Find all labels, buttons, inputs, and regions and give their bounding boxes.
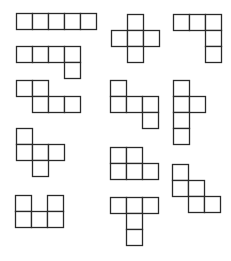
square-cell — [48, 212, 64, 228]
p-pentomino-shape — [111, 148, 159, 180]
square-cell — [65, 47, 81, 63]
n-pentomino-shape — [17, 81, 81, 113]
y-pentomino-shape — [174, 81, 206, 145]
z-pentomino-shape — [111, 81, 159, 129]
square-cell — [143, 113, 159, 129]
square-cell — [81, 14, 97, 30]
square-cell — [32, 212, 48, 228]
square-cell — [17, 145, 33, 161]
square-cell — [173, 165, 189, 181]
w-pentomino-shape — [173, 165, 221, 213]
x-pentomino-shape — [112, 15, 160, 63]
square-cell — [49, 145, 65, 161]
square-cell — [144, 31, 160, 47]
square-cell — [49, 14, 65, 30]
square-cell — [48, 196, 64, 212]
pentomino-diagram — [0, 0, 231, 261]
square-cell — [111, 198, 127, 214]
square-cell — [17, 47, 33, 63]
square-cell — [17, 81, 33, 97]
square-cell — [127, 164, 143, 180]
square-cell — [111, 148, 127, 164]
square-cell — [189, 181, 205, 197]
square-cell — [16, 196, 32, 212]
square-cell — [111, 164, 127, 180]
square-cell — [127, 198, 143, 214]
square-cell — [111, 81, 127, 97]
square-cell — [206, 31, 222, 47]
i-pentomino-shape — [17, 14, 97, 30]
square-cell — [189, 197, 205, 213]
square-cell — [174, 97, 190, 113]
square-cell — [16, 212, 32, 228]
square-cell — [127, 148, 143, 164]
square-cell — [65, 63, 81, 79]
square-cell — [111, 97, 127, 113]
square-cell — [174, 81, 190, 97]
square-cell — [33, 47, 49, 63]
square-cell — [65, 97, 81, 113]
square-cell — [33, 81, 49, 97]
square-cell — [206, 47, 222, 63]
square-cell — [128, 15, 144, 31]
square-cell — [33, 14, 49, 30]
square-cell — [174, 129, 190, 145]
f-pentomino-shape — [17, 129, 65, 177]
square-cell — [65, 14, 81, 30]
square-cell — [127, 97, 143, 113]
square-cell — [143, 198, 159, 214]
square-cell — [127, 214, 143, 230]
square-cell — [127, 230, 143, 246]
square-cell — [33, 161, 49, 177]
u-pentomino-shape — [16, 196, 64, 228]
square-cell — [205, 197, 221, 213]
square-cell — [112, 31, 128, 47]
l-pentomino-shape — [17, 47, 81, 79]
square-cell — [174, 15, 190, 31]
square-cell — [49, 47, 65, 63]
t-pentomino-shape — [111, 198, 159, 246]
square-cell — [49, 97, 65, 113]
square-cell — [206, 15, 222, 31]
square-cell — [143, 164, 159, 180]
square-cell — [17, 129, 33, 145]
square-cell — [33, 97, 49, 113]
square-cell — [174, 113, 190, 129]
square-cell — [128, 31, 144, 47]
square-cell — [190, 15, 206, 31]
square-cell — [173, 181, 189, 197]
square-cell — [143, 97, 159, 113]
square-cell — [17, 14, 33, 30]
v-pentomino-shape — [174, 15, 222, 63]
square-cell — [33, 145, 49, 161]
square-cell — [128, 47, 144, 63]
square-cell — [190, 97, 206, 113]
